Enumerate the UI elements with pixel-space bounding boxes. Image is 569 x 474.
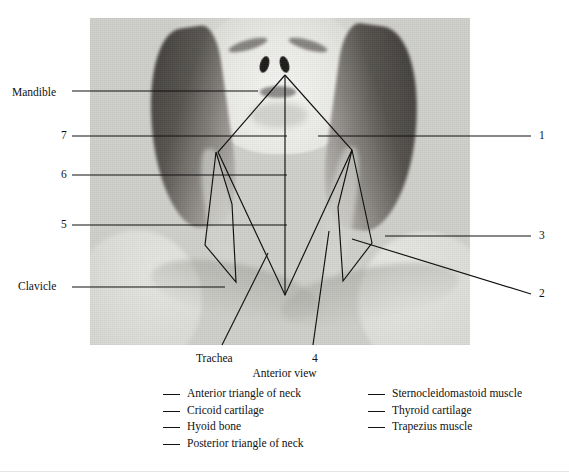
label-4: 4 bbox=[312, 353, 318, 365]
label-clavicle: Clavicle bbox=[18, 281, 56, 293]
legend-item-label: Anterior triangle of neck bbox=[187, 387, 301, 399]
answer-blank[interactable] bbox=[163, 394, 180, 395]
legend-column-right: Sternocleidomastoid muscle Thyroid carti… bbox=[368, 387, 558, 437]
legend-item[interactable]: Trapezius muscle bbox=[368, 420, 558, 437]
label-3: 3 bbox=[539, 230, 545, 242]
legend-item[interactable]: Thyroid cartilage bbox=[368, 404, 558, 421]
label-trachea: Trachea bbox=[196, 353, 233, 365]
figure-caption: Anterior view bbox=[0, 367, 569, 379]
label-7: 7 bbox=[61, 130, 67, 142]
leader-2 bbox=[352, 239, 531, 294]
answer-blank[interactable] bbox=[163, 427, 180, 428]
legend-item-label: Thyroid cartilage bbox=[392, 404, 472, 416]
legend-item-label: Posterior triangle of neck bbox=[187, 437, 304, 449]
answer-blank[interactable] bbox=[163, 444, 180, 445]
legend-item[interactable]: Hyoid bone bbox=[163, 420, 363, 437]
legend-item[interactable]: Posterior triangle of neck bbox=[163, 437, 363, 454]
answer-blank[interactable] bbox=[368, 427, 385, 428]
answer-blank[interactable] bbox=[368, 394, 385, 395]
legend-item[interactable]: Anterior triangle of neck bbox=[163, 387, 363, 404]
leader-4 bbox=[313, 231, 329, 345]
legend-item-label: Trapezius muscle bbox=[392, 420, 472, 432]
label-6: 6 bbox=[61, 169, 67, 181]
posterior-triangle-left-overlay bbox=[205, 152, 236, 282]
legend-column-left: Anterior triangle of neck Cricoid cartil… bbox=[163, 387, 363, 453]
anatomy-figure: Mandible 7 6 5 Clavicle 1 3 2 Trachea 4 … bbox=[0, 0, 569, 474]
label-1: 1 bbox=[539, 130, 545, 142]
legend-item-label: Cricoid cartilage bbox=[187, 404, 264, 416]
answer-blank[interactable] bbox=[163, 411, 180, 412]
leader-trachea bbox=[222, 253, 268, 345]
legend-item[interactable]: Cricoid cartilage bbox=[163, 404, 363, 421]
label-2: 2 bbox=[539, 288, 545, 300]
label-mandible: Mandible bbox=[12, 87, 56, 99]
legend-item-label: Sternocleidomastoid muscle bbox=[392, 387, 522, 399]
page-rule bbox=[0, 471, 569, 472]
answer-blank[interactable] bbox=[368, 411, 385, 412]
legend-item[interactable]: Sternocleidomastoid muscle bbox=[368, 387, 558, 404]
legend-item-label: Hyoid bone bbox=[187, 420, 241, 432]
label-5: 5 bbox=[61, 219, 67, 231]
